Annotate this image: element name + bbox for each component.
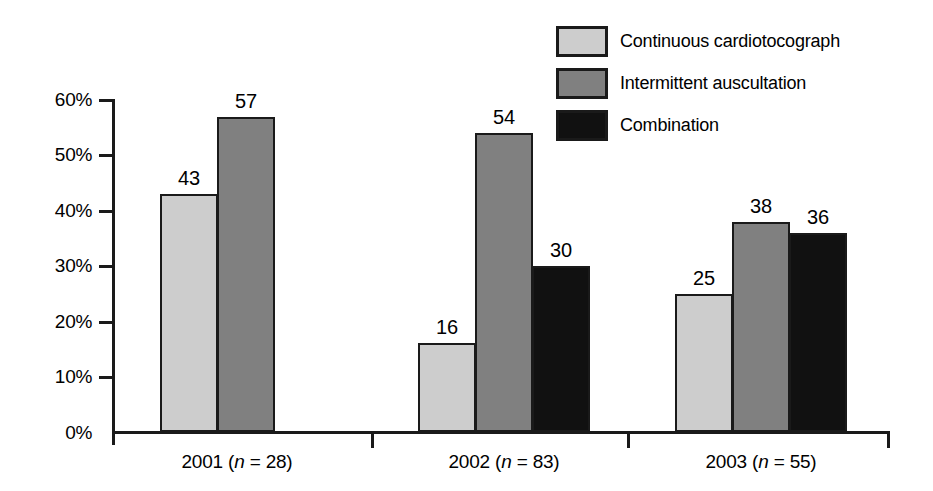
y-tick-30 [99, 265, 113, 268]
legend-label-combination: Combination [620, 114, 719, 136]
y-axis-label-30: 30% [32, 256, 92, 275]
bar-value-2001-intermittent: 57 [216, 91, 276, 111]
y-axis-label-20: 20% [32, 312, 92, 331]
y-tick-10 [99, 376, 113, 379]
x-tick-separator-2 [627, 433, 630, 448]
x-category-n-italic-2002: n [501, 451, 511, 472]
bar-chart: 60% 50% 40% 30% 20% 10% 0% 43 57 [0, 0, 933, 491]
y-tick-20 [99, 321, 113, 324]
bar-2002-combination [532, 266, 590, 432]
bar-value-2003-intermittent: 38 [731, 196, 791, 216]
legend-swatch-combination [556, 110, 608, 141]
x-category-n-rest-2003: = 55) [769, 451, 817, 472]
bar-value-2002-continuous: 16 [417, 317, 477, 337]
bar-value-2002-intermittent: 54 [474, 107, 534, 127]
x-axis-category-2003: 2003 (n = 55) [681, 452, 841, 471]
x-category-year-2001: 2001 [182, 451, 223, 472]
bar-2002-intermittent-auscultation [475, 133, 533, 432]
y-axis-label-60: 60% [32, 90, 92, 109]
y-axis-label-40: 40% [32, 201, 92, 220]
bar-2001-intermittent-auscultation [217, 117, 275, 432]
legend-swatch-continuous-cardiotocograph [556, 26, 608, 57]
y-axis-label-50: 50% [32, 145, 92, 164]
x-category-year-2002: 2002 [449, 451, 490, 472]
x-category-n-italic-2001: n [234, 451, 244, 472]
y-tick-40 [99, 210, 113, 213]
x-axis-category-2001: 2001 (n = 28) [157, 452, 317, 471]
x-category-n-rest-2002: = 83) [512, 451, 560, 472]
bar-value-2001-continuous: 43 [159, 168, 219, 188]
bar-2003-continuous-cardiotocograph [675, 294, 733, 432]
bar-value-2003-combination: 36 [788, 207, 848, 227]
x-axis-category-2002: 2002 (n = 83) [424, 452, 584, 471]
y-tick-60 [99, 99, 113, 102]
bar-2001-continuous-cardiotocograph [160, 194, 218, 432]
y-axis-label-10: 10% [32, 367, 92, 386]
legend-swatch-intermittent-auscultation [556, 68, 608, 99]
bar-2002-continuous-cardiotocograph [418, 343, 476, 432]
legend-label-intermittent-auscultation: Intermittent auscultation [620, 72, 806, 94]
x-axis-end-tick [887, 433, 890, 448]
legend-label-continuous-cardiotocograph: Continuous cardiotocograph [620, 30, 840, 52]
bar-value-2002-combination: 30 [531, 240, 591, 260]
x-category-n-italic-2003: n [758, 451, 768, 472]
x-category-year-2003: 2003 [706, 451, 747, 472]
x-tick-separator-1 [371, 433, 374, 448]
bar-2003-combination [789, 233, 847, 432]
x-category-n-rest-2001: = 28) [245, 451, 293, 472]
y-axis-label-0: 0% [32, 423, 92, 442]
bar-2003-intermittent-auscultation [732, 222, 790, 432]
bar-value-2003-continuous: 25 [674, 268, 734, 288]
y-axis-zero-stub [112, 431, 115, 445]
y-tick-50 [99, 154, 113, 157]
